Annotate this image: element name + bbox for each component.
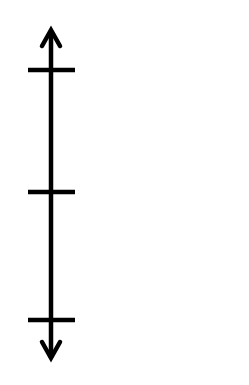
vertical-number-line [0,0,249,385]
